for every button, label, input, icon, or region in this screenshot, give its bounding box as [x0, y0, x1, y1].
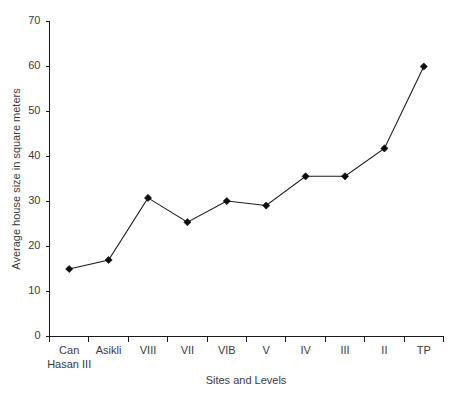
x-tick-label: VIB	[218, 344, 236, 356]
y-axis-tick-labels: 010203040506070	[28, 14, 40, 341]
x-tick-label: VIII	[140, 344, 157, 356]
y-tick-label: 70	[28, 14, 40, 26]
line-chart: 010203040506070 CanHasan IIIAsikliVIIIVI…	[0, 0, 455, 401]
data-point-marker	[184, 219, 191, 226]
data-point-marker	[223, 197, 230, 204]
x-tick-label: VII	[181, 344, 194, 356]
x-tick-label: II	[381, 344, 387, 356]
data-point-marker	[381, 145, 388, 152]
x-tick-label: IV	[300, 344, 311, 356]
x-tick-label: V	[263, 344, 271, 356]
data-point-marker	[420, 63, 427, 70]
chart-canvas: 010203040506070 CanHasan IIIAsikliVIIIVI…	[0, 0, 455, 401]
y-tick-label: 20	[28, 239, 40, 251]
x-axis-ticks	[50, 337, 444, 342]
x-tick-label: Asikli	[96, 344, 122, 356]
x-tick-label: Can	[59, 344, 79, 356]
series-markers	[66, 63, 428, 273]
y-tick-label: 40	[28, 149, 40, 161]
x-tick-label: III	[340, 344, 349, 356]
data-point-marker	[105, 256, 112, 263]
data-point-marker	[341, 173, 348, 180]
data-point-marker	[144, 194, 151, 201]
y-axis-ticks	[46, 22, 50, 337]
x-axis-title: Sites and Levels	[206, 374, 287, 386]
x-axis-tick-labels: CanHasan IIIAsikliVIIIVIIVIBVIVIIIIITP	[47, 344, 431, 370]
y-tick-label: 0	[34, 329, 40, 341]
y-tick-label: 50	[28, 104, 40, 116]
y-axis-title: Average house size in square meters	[10, 88, 22, 270]
x-tick-label: Hasan III	[47, 358, 91, 370]
data-point-marker	[66, 265, 73, 272]
y-tick-label: 60	[28, 59, 40, 71]
y-tick-label: 30	[28, 194, 40, 206]
data-series	[66, 63, 428, 273]
series-line	[69, 67, 424, 270]
y-tick-label: 10	[28, 284, 40, 296]
x-tick-label: TP	[417, 344, 431, 356]
